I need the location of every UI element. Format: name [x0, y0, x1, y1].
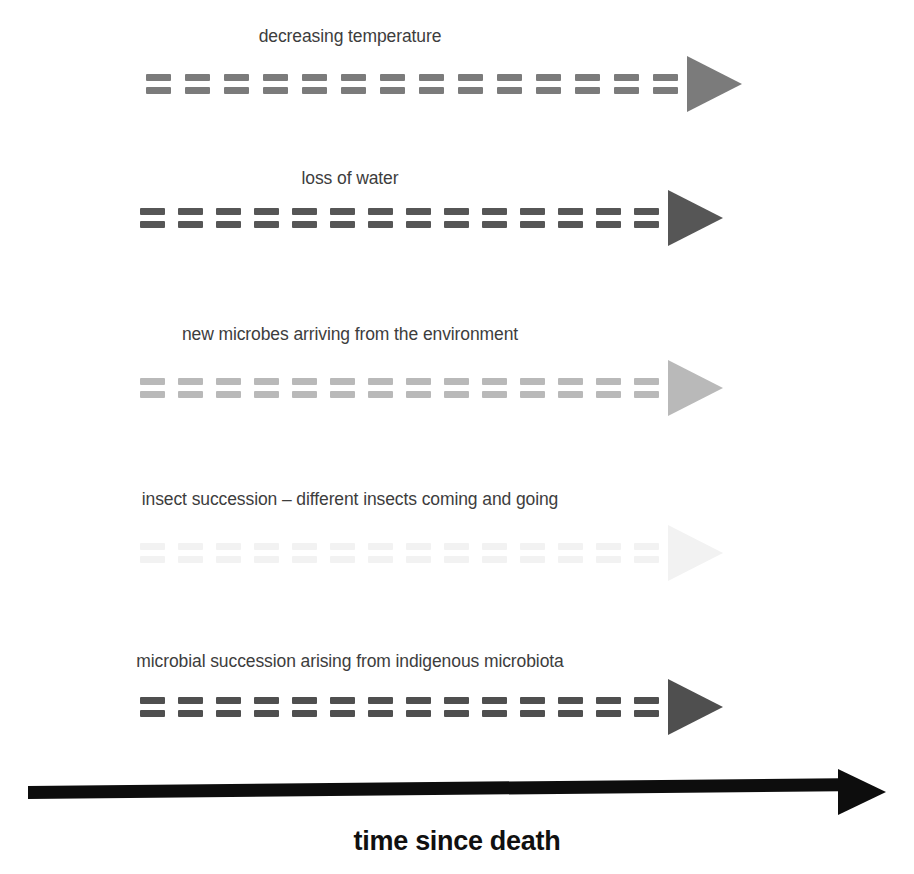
equals-mark [178, 208, 203, 228]
equals-bar [368, 221, 393, 228]
equals-bar [406, 221, 431, 228]
process-label: new microbes arriving from the environme… [0, 324, 807, 345]
equals-mark [185, 74, 210, 94]
equals-bar [292, 221, 317, 228]
equals-bar [292, 710, 317, 717]
equals-mark [458, 74, 483, 94]
equals-bar [482, 697, 507, 704]
equals-bar [330, 543, 355, 550]
equals-mark [520, 543, 545, 563]
equals-bar [444, 710, 469, 717]
equals-bar [634, 697, 659, 704]
equals-mark [634, 378, 659, 398]
dashed-line [140, 697, 659, 717]
equals-mark [406, 697, 431, 717]
equals-mark [146, 74, 171, 94]
equals-bar [140, 391, 165, 398]
equals-bar [575, 87, 600, 94]
process-track [146, 62, 742, 106]
equals-mark [596, 697, 621, 717]
equals-bar [558, 697, 583, 704]
equals-bar [444, 391, 469, 398]
equals-bar [558, 556, 583, 563]
process-track [140, 685, 723, 729]
equals-mark [596, 208, 621, 228]
equals-bar [330, 697, 355, 704]
equals-bar [520, 391, 545, 398]
equals-bar [330, 208, 355, 215]
equals-bar [406, 710, 431, 717]
equals-bar [178, 208, 203, 215]
equals-bar [292, 378, 317, 385]
equals-mark [444, 378, 469, 398]
equals-bar [497, 74, 522, 81]
equals-bar [341, 87, 366, 94]
equals-bar [292, 543, 317, 550]
equals-bar [292, 697, 317, 704]
equals-bar [178, 543, 203, 550]
equals-bar [178, 556, 203, 563]
equals-mark [406, 543, 431, 563]
equals-bar [653, 74, 678, 81]
equals-mark [634, 543, 659, 563]
equals-bar [140, 221, 165, 228]
equals-mark [482, 208, 507, 228]
process-label: loss of water [0, 168, 807, 189]
equals-bar [185, 87, 210, 94]
equals-mark [614, 74, 639, 94]
equals-bar [341, 74, 366, 81]
equals-bar [292, 391, 317, 398]
equals-bar [254, 556, 279, 563]
equals-bar [406, 556, 431, 563]
equals-bar [330, 710, 355, 717]
equals-bar [536, 74, 561, 81]
equals-mark [216, 208, 241, 228]
equals-mark [254, 208, 279, 228]
equals-bar [406, 378, 431, 385]
equals-bar [458, 87, 483, 94]
equals-mark [216, 543, 241, 563]
equals-mark [596, 378, 621, 398]
equals-bar [185, 74, 210, 81]
equals-mark [263, 74, 288, 94]
equals-bar [216, 391, 241, 398]
equals-mark [254, 697, 279, 717]
equals-mark [558, 697, 583, 717]
equals-mark [224, 74, 249, 94]
equals-bar [497, 87, 522, 94]
equals-bar [254, 208, 279, 215]
equals-bar [254, 543, 279, 550]
equals-bar [614, 74, 639, 81]
equals-bar [596, 378, 621, 385]
process-arrow-head [668, 679, 723, 735]
equals-bar [330, 556, 355, 563]
equals-bar [634, 543, 659, 550]
equals-bar [419, 87, 444, 94]
equals-bar [140, 208, 165, 215]
equals-mark [341, 74, 366, 94]
equals-mark [520, 697, 545, 717]
equals-bar [419, 74, 444, 81]
equals-bar [368, 556, 393, 563]
equals-bar [482, 221, 507, 228]
equals-bar [444, 378, 469, 385]
equals-bar [380, 74, 405, 81]
equals-bar [596, 543, 621, 550]
equals-bar [596, 208, 621, 215]
equals-bar [634, 221, 659, 228]
equals-bar [444, 556, 469, 563]
equals-bar [140, 378, 165, 385]
equals-mark [330, 543, 355, 563]
equals-bar [558, 710, 583, 717]
equals-mark [482, 697, 507, 717]
equals-bar [216, 378, 241, 385]
equals-bar [140, 556, 165, 563]
equals-bar [634, 378, 659, 385]
equals-mark [558, 208, 583, 228]
equals-bar [368, 710, 393, 717]
process-arrow-head [687, 56, 742, 112]
equals-bar [596, 710, 621, 717]
equals-bar [292, 556, 317, 563]
equals-bar [558, 221, 583, 228]
equals-mark [330, 697, 355, 717]
